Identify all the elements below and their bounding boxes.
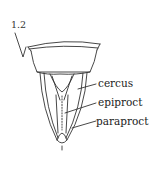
label-paraproct: paraproct [96, 116, 148, 127]
figure-pointer-line [15, 33, 26, 57]
figure-number: 1.2 [11, 19, 26, 30]
cercus-leader [78, 84, 96, 89]
label-cercus: cercus [98, 78, 133, 89]
epiproct-leader [65, 103, 96, 113]
label-epiproct: epiproct [98, 97, 142, 108]
